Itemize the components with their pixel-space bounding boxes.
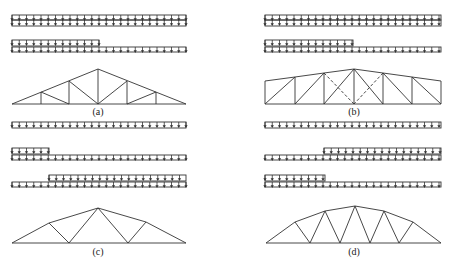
panel-a: [12, 15, 186, 104]
truss-d: [266, 206, 441, 243]
panel-b: [265, 15, 441, 104]
label-d: (d): [348, 246, 360, 257]
label-b: (b): [348, 106, 360, 117]
truss-figure: [0, 0, 452, 270]
load-arrows: [10, 15, 441, 188]
panel-d: [265, 122, 441, 243]
truss-a: [12, 69, 186, 104]
load-left-d: [265, 175, 441, 187]
load-full-b: [265, 15, 441, 26]
label-a: (a): [92, 106, 103, 117]
label-c: (c): [92, 246, 103, 257]
truss-c: [12, 208, 186, 243]
load-full-d: [265, 122, 441, 128]
truss-b: [265, 69, 441, 104]
